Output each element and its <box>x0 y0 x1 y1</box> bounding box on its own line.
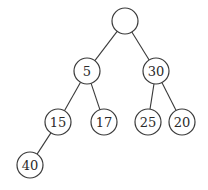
node-circle <box>112 8 138 34</box>
tree-edge-n15-n40 <box>37 133 51 154</box>
binary-tree-diagram: 5301517252040 <box>0 0 208 190</box>
node-label: 15 <box>50 115 67 130</box>
tree-edges <box>37 31 176 154</box>
node-label: 30 <box>148 64 165 79</box>
tree-node-n25: 25 <box>135 109 161 135</box>
node-label: 5 <box>83 64 91 79</box>
tree-node-n30: 30 <box>143 58 169 84</box>
tree-node-n20: 20 <box>169 109 195 135</box>
tree-node-n5: 5 <box>74 58 100 84</box>
tree-node-n17: 17 <box>91 109 117 135</box>
tree-edge-n5-n15 <box>64 82 80 110</box>
node-label: 40 <box>22 158 39 173</box>
node-label: 20 <box>174 115 191 130</box>
tree-edge-root-n5 <box>95 31 117 60</box>
node-label: 17 <box>96 115 113 130</box>
tree-node-n40: 40 <box>17 152 43 178</box>
tree-edge-n30-n25 <box>150 84 154 109</box>
node-label: 25 <box>140 115 157 130</box>
tree-nodes: 5301517252040 <box>17 8 195 178</box>
tree-edge-n5-n17 <box>91 83 100 109</box>
tree-edge-n30-n20 <box>162 83 176 111</box>
tree-node-n15: 15 <box>45 109 71 135</box>
tree-edge-root-n30 <box>132 32 149 60</box>
tree-node-root <box>112 8 138 34</box>
